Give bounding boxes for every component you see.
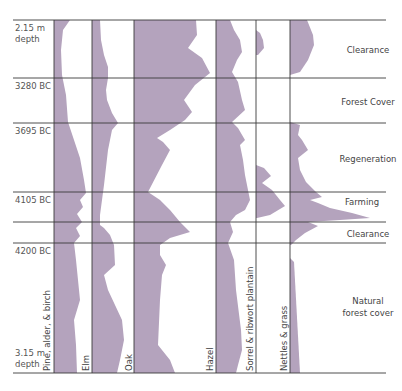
column-label-nettles-grass: Nettles & grass <box>279 306 289 371</box>
zone-natural-forest-cover: Natural forest cover <box>323 295 402 319</box>
curve-sorrel-ribwort-2 <box>256 165 285 218</box>
curve-pine-alder-birch <box>54 20 86 373</box>
top-depth-unit: depth <box>15 34 45 45</box>
tick-4200: 4200 BC <box>15 246 51 257</box>
curve-nettles-grass-3 <box>290 258 300 373</box>
bottom-depth-unit: depth <box>15 359 45 370</box>
zone-clearance-lower: Clearance <box>323 228 402 240</box>
pollen-diagram: 2.15 m depth 3280 BC 3695 BC 4105 BC 420… <box>0 0 402 391</box>
zone-regeneration: Regeneration <box>323 153 402 165</box>
top-depth-label: 2.15 m depth <box>15 23 45 45</box>
zone-farming: Farming <box>317 196 402 208</box>
top-depth-value: 2.15 m <box>15 23 45 34</box>
column-label-sorrel-ribwort: Sorrel & ribwort plantain <box>245 267 255 371</box>
column-label-oak: Oak <box>124 354 134 371</box>
curve-oak <box>134 20 210 373</box>
column-label-hazel: Hazel <box>205 347 215 371</box>
zone-clearance-upper: Clearance <box>323 44 402 56</box>
zone-natural-line2: forest cover <box>323 307 402 319</box>
column-label-elm: Elm <box>81 355 91 371</box>
zone-forest-cover: Forest Cover <box>323 96 402 108</box>
tick-3695: 3695 BC <box>15 126 51 137</box>
tick-3280: 3280 BC <box>15 81 51 92</box>
curve-elm <box>92 20 124 373</box>
curve-sorrel-ribwort <box>256 30 264 55</box>
tick-4105: 4105 BC <box>15 195 51 206</box>
curve-nettles-grass <box>290 20 314 75</box>
bottom-depth-label: 3.15 m depth <box>15 348 45 370</box>
column-label-pine-alder-birch: Pine, alder, & birch <box>42 290 52 371</box>
zone-natural-line1: Natural <box>323 295 402 307</box>
curve-nettles-grass-2 <box>290 122 370 245</box>
bottom-depth-value: 3.15 m <box>15 348 45 359</box>
